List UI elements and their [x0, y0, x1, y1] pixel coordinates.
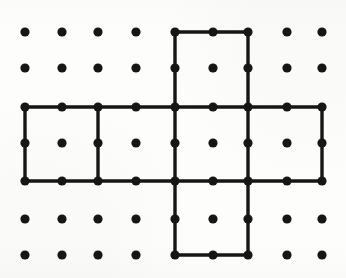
lattice-dot-r2-c9 — [317, 63, 326, 72]
lattice-dot-r5-c1 — [20, 176, 29, 185]
lattice-dot-r2-c2 — [57, 63, 66, 72]
lattice-dot-r4-c3 — [93, 138, 102, 147]
lattice-dot-r1-c7 — [243, 27, 252, 36]
lattice-dot-r6-c1 — [20, 214, 29, 223]
lattice-dot-r5-c7 — [243, 176, 252, 185]
lattice-dot-r4-c6 — [208, 138, 217, 147]
lattice-dot-r6-c6 — [208, 214, 217, 223]
lattice-dot-r4-c1 — [20, 138, 29, 147]
lattice-dot-r3-c1 — [20, 102, 29, 111]
lattice-dot-r3-c3 — [93, 102, 102, 111]
lattice-dot-r5-c5 — [170, 176, 179, 185]
lattice-dot-r3-c6 — [208, 102, 217, 111]
lattice-dot-r5-c3 — [93, 176, 102, 185]
lattice-dot-r7-c3 — [93, 250, 102, 259]
lattice-dot-r2-c8 — [282, 63, 291, 72]
lattice-dot-r2-c1 — [20, 63, 29, 72]
lattice-dot-r4-c9 — [317, 138, 326, 147]
lattice-dot-r3-c5 — [170, 102, 179, 111]
lattice-dot-r5-c8 — [282, 176, 291, 185]
lattice-dot-r6-c2 — [57, 214, 66, 223]
lattice-dot-r6-c4 — [131, 214, 140, 223]
lattice-dot-r5-c9 — [317, 176, 326, 185]
lattice-dot-r2-c7 — [243, 63, 252, 72]
lattice-dot-r4-c2 — [57, 138, 66, 147]
lattice-dot-r2-c6 — [208, 63, 217, 72]
lattice-dot-r1-c5 — [170, 27, 179, 36]
lattice-dot-r6-c8 — [282, 214, 291, 223]
lattice-dot-r3-c7 — [243, 102, 252, 111]
lattice-dot-r6-c5 — [170, 214, 179, 223]
lattice-dot-r7-c5 — [170, 250, 179, 259]
lattice-dot-r6-c9 — [317, 214, 326, 223]
lattice-dot-r3-c8 — [282, 102, 291, 111]
lattice-dot-r5-c4 — [131, 176, 140, 185]
lattice-dot-r6-c7 — [243, 214, 252, 223]
lattice-dot-r2-c4 — [131, 63, 140, 72]
lattice-dot-r4-c7 — [243, 138, 252, 147]
lattice-dot-r6-c3 — [93, 214, 102, 223]
lattice-dot-r3-c4 — [131, 102, 140, 111]
lattice-dot-r7-c4 — [131, 250, 140, 259]
lattice-dot-r4-c5 — [170, 138, 179, 147]
lattice-dot-r1-c2 — [57, 27, 66, 36]
lattice-dot-r1-c8 — [282, 27, 291, 36]
lattice-dot-r7-c1 — [20, 250, 29, 259]
lattice-dot-r2-c5 — [170, 63, 179, 72]
dot-lattice-figure — [0, 0, 346, 278]
lattice-dot-r5-c2 — [57, 176, 66, 185]
figure-container — [0, 0, 346, 278]
lattice-dot-r3-c9 — [317, 102, 326, 111]
lattice-dot-r7-c2 — [57, 250, 66, 259]
lattice-dot-r5-c6 — [208, 176, 217, 185]
lattice-dot-r1-c4 — [131, 27, 140, 36]
lattice-dot-r4-c8 — [282, 138, 291, 147]
lattice-dot-r7-c7 — [243, 250, 252, 259]
lattice-dot-r1-c1 — [20, 27, 29, 36]
lattice-dot-r1-c6 — [208, 27, 217, 36]
lattice-dot-r7-c8 — [282, 250, 291, 259]
lattice-dot-r4-c4 — [131, 138, 140, 147]
lattice-dot-r3-c2 — [57, 102, 66, 111]
lattice-dot-r2-c3 — [93, 63, 102, 72]
lattice-dot-r7-c9 — [317, 250, 326, 259]
lattice-dot-r1-c3 — [93, 27, 102, 36]
lattice-dot-r1-c9 — [317, 27, 326, 36]
lattice-dot-r7-c6 — [208, 250, 217, 259]
